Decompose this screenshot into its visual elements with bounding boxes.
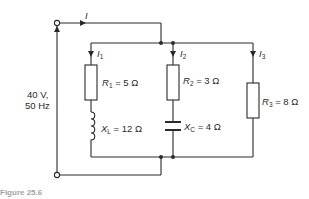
arrow-source-up (54, 26, 60, 32)
r1-label: R1 = 5 Ω (102, 77, 138, 91)
current-i-label: I (85, 10, 88, 21)
r2-label: R2 = 3 Ω (183, 75, 219, 89)
arrow-i1 (88, 51, 94, 57)
junction-dot (159, 41, 163, 45)
arrow-i2 (170, 51, 176, 57)
xl-label: XL = 12 Ω (101, 123, 142, 137)
junction-dot (171, 155, 175, 159)
r3-label: R3 = 8 Ω (262, 96, 298, 110)
current-i2-label: I2 (180, 48, 186, 62)
source-frequency-label: 50 Hz (25, 100, 50, 111)
junction-dot (159, 155, 163, 159)
figure-caption: Figure 25.6 (0, 188, 42, 197)
terminal-bottom (54, 172, 59, 177)
source-voltage-label: 40 V, (27, 89, 48, 100)
resistor-r3 (247, 83, 259, 118)
junction-dot (171, 41, 175, 45)
xc-label: XC = 4 Ω (184, 121, 221, 135)
resistor-r1 (85, 65, 97, 100)
current-i3-label: I3 (259, 48, 265, 62)
terminal-top (54, 20, 59, 25)
current-i1-label: I1 (97, 48, 103, 62)
inductor-xl (91, 112, 95, 145)
resistor-r2 (167, 65, 179, 100)
arrow-i3 (250, 51, 256, 57)
